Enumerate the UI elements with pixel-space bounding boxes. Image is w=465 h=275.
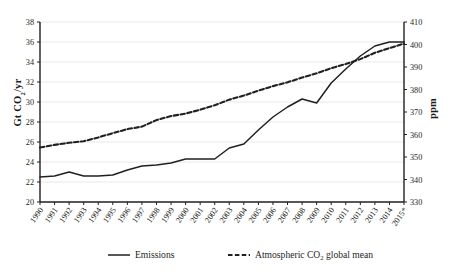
y-tick-label: 38 [26, 18, 34, 27]
series-line-dashed [40, 44, 404, 148]
x-tick-label: 2013 [363, 206, 380, 225]
y-tick-label: 34 [26, 58, 34, 67]
y2-tick-label: 350 [410, 153, 422, 162]
y-axis-right-ticks: 330340350360370380390400410 [404, 18, 422, 207]
plot-area: 20222426283032343638 3303403503603703803… [0, 0, 465, 275]
x-tick-label: 1994 [87, 206, 104, 225]
x-tick-label: 2002 [203, 206, 220, 225]
chart-figure: Gt CO2/yr ppm 20222426283032343638 33034… [0, 0, 465, 275]
y-tick-label: 28 [26, 118, 34, 127]
x-tick-label: 2012 [349, 206, 366, 225]
x-tick-label: 1990 [28, 206, 45, 225]
y-tick-label: 36 [26, 38, 34, 47]
y-tick-label: 20 [26, 198, 34, 207]
x-tick-label: 2000 [174, 206, 191, 225]
x-tick-label: 1995 [101, 206, 118, 225]
x-tick-label: 2009 [305, 206, 322, 225]
y-tick-label: 26 [26, 138, 34, 147]
x-tick-label: 1996 [116, 206, 133, 225]
x-tick-label: 1997 [130, 206, 147, 225]
x-tick-label: 2003 [218, 206, 235, 225]
y2-tick-label: 390 [410, 63, 422, 72]
x-tick-label: 1998 [145, 206, 162, 225]
y2-tick-label: 400 [410, 41, 422, 50]
y2-tick-label: 410 [410, 18, 422, 27]
x-tick-label: 2015* [390, 206, 409, 228]
y2-tick-label: 330 [410, 198, 422, 207]
chart-legend: EmissionsAtmospheric CO2 global mean [108, 249, 373, 261]
legend-label: Atmospheric CO2 global mean [255, 249, 373, 261]
x-tick-label: 2001 [189, 206, 206, 225]
y2-tick-label: 380 [410, 86, 422, 95]
y-tick-label: 24 [26, 158, 34, 167]
y2-tick-label: 340 [410, 176, 422, 185]
x-tick-label: 2004 [232, 206, 249, 225]
y-tick-label: 22 [26, 178, 34, 187]
x-tick-label: 2005 [247, 206, 264, 225]
legend-label: Emissions [135, 249, 175, 260]
x-tick-label: 2007 [276, 206, 293, 225]
x-tick-label: 1991 [43, 206, 60, 225]
x-tick-label: 1999 [159, 206, 176, 225]
x-tick-label: 1993 [72, 206, 89, 225]
x-axis-ticks: 1990199119921993199419951996199719981999… [28, 202, 409, 228]
x-tick-label: 2010 [320, 206, 337, 225]
y-tick-label: 32 [26, 78, 34, 87]
y2-tick-label: 360 [410, 131, 422, 140]
y-tick-label: 30 [26, 98, 34, 107]
y2-tick-label: 370 [410, 108, 422, 117]
y-axis-left-ticks: 20222426283032343638 [26, 18, 40, 207]
axis-lines [40, 22, 404, 202]
x-tick-label: 2008 [290, 206, 307, 225]
x-tick-label: 2011 [334, 206, 351, 224]
x-tick-label: 1992 [57, 206, 74, 225]
x-tick-label: 2006 [261, 206, 278, 225]
